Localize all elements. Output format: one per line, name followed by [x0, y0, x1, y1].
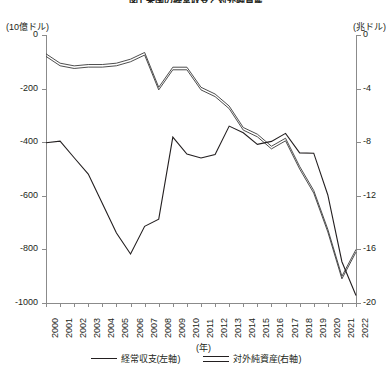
- legend-swatch-double-line-icon: [203, 356, 229, 362]
- series-net-external-assets-line: [46, 52, 356, 276]
- legend-label-current-account: 経常収支(左軸): [121, 352, 181, 365]
- series-current-account-line: [46, 126, 356, 295]
- legend-swatch-single-line-icon: [91, 358, 117, 359]
- legend-item-current-account: 経常収支(左軸): [91, 352, 181, 365]
- series-plot: [0, 0, 392, 367]
- chart-figure: 図1 米国の経常収支と対外純資産 (10億ドル) (兆ドル) 0-200-400…: [0, 0, 392, 367]
- legend-item-net-external-assets: 対外純資産(右軸): [203, 352, 302, 365]
- legend-label-net-external-assets: 対外純資産(右軸): [233, 352, 302, 365]
- chart-legend: 経常収支(左軸) 対外純資産(右軸): [0, 352, 392, 365]
- series-net-external-assets-line-inner: [46, 55, 356, 279]
